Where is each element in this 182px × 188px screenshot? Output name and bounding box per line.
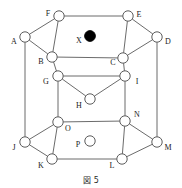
- node-I[interactable]: [120, 71, 130, 81]
- node-label-D: D: [165, 38, 171, 46]
- node-X[interactable]: [85, 31, 96, 42]
- node-D[interactable]: [152, 32, 162, 42]
- node-label-A: A: [11, 38, 17, 46]
- edge-J-K: [29, 145, 47, 156]
- figure-caption: 図 5: [0, 174, 182, 185]
- node-label-X: X: [76, 37, 82, 45]
- node-label-K: K: [38, 162, 44, 170]
- edge-G-H: [62, 79, 86, 96]
- node-label-H: H: [76, 102, 82, 110]
- node-label-N: N: [134, 111, 140, 119]
- node-label-O: O: [65, 125, 71, 133]
- lattice-diagram: [0, 0, 182, 188]
- edge-E-D: [132, 19, 153, 34]
- node-G[interactable]: [53, 71, 63, 81]
- node-K[interactable]: [47, 154, 57, 164]
- edge-D-C: [127, 40, 152, 56]
- node-C[interactable]: [118, 53, 128, 63]
- figure-container: ABCDEFGHIJKLMNOPX 図 5: [0, 0, 182, 188]
- edge-A-B: [29, 40, 48, 54]
- node-label-J: J: [12, 144, 15, 152]
- edge-F-B: [53, 21, 58, 52]
- edge-I-H: [94, 79, 120, 96]
- edge-E-C: [124, 21, 128, 53]
- edge-N-M: [129, 124, 152, 139]
- node-label-C: C: [110, 59, 115, 67]
- edge-C-I: [124, 63, 125, 71]
- edge-O-J: [29, 125, 53, 140]
- node-E[interactable]: [123, 11, 133, 21]
- node-label-B: B: [38, 58, 43, 66]
- node-label-L: L: [110, 162, 115, 170]
- node-label-I: I: [136, 78, 139, 86]
- edge-B-G: [54, 62, 57, 71]
- node-A[interactable]: [20, 32, 30, 42]
- edge-N-L: [122, 126, 124, 154]
- node-F[interactable]: [54, 11, 64, 21]
- node-layer: [20, 11, 162, 164]
- node-H[interactable]: [85, 94, 95, 104]
- node-O[interactable]: [53, 117, 63, 127]
- node-P[interactable]: [85, 136, 95, 146]
- edge-O-N: [63, 121, 120, 122]
- node-M[interactable]: [152, 137, 162, 147]
- node-N[interactable]: [120, 116, 130, 126]
- edge-O-K: [53, 127, 57, 154]
- node-J[interactable]: [20, 137, 30, 147]
- edge-B-C: [57, 57, 118, 58]
- node-L[interactable]: [117, 154, 127, 164]
- edge-M-L: [127, 144, 153, 156]
- node-label-F: F: [46, 10, 50, 18]
- edge-F-A: [29, 19, 54, 35]
- node-label-E: E: [137, 11, 142, 19]
- node-label-P: P: [76, 141, 80, 149]
- node-label-G: G: [43, 78, 49, 86]
- node-B[interactable]: [47, 52, 57, 62]
- node-label-M: M: [164, 144, 171, 152]
